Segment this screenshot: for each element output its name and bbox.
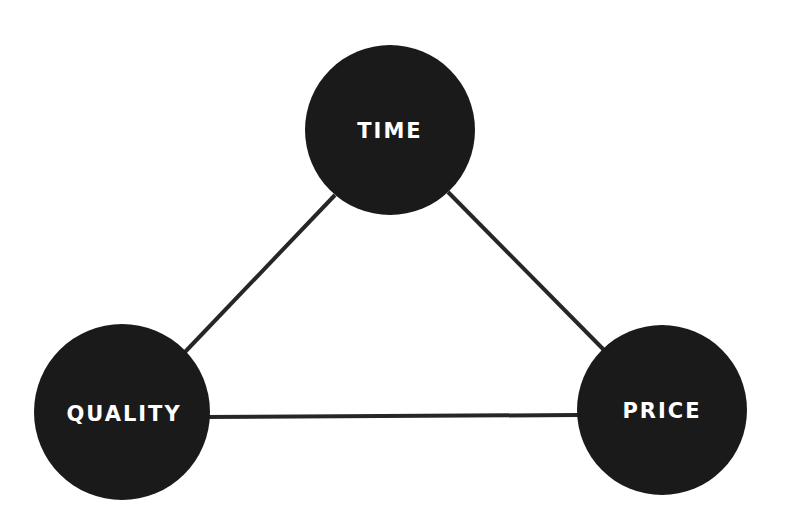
node-time: TIME — [305, 45, 475, 215]
edge-time-price — [448, 192, 604, 350]
edge-time-quality — [185, 195, 335, 352]
node-quality: QUALITY — [34, 324, 210, 500]
node-price-label: PRICE — [622, 399, 701, 423]
triangle-diagram: TIME QUALITY PRICE — [0, 0, 792, 532]
node-quality-label: QUALITY — [66, 402, 181, 426]
edge-quality-price — [205, 415, 578, 417]
node-price: PRICE — [577, 325, 747, 495]
node-time-label: TIME — [357, 119, 422, 143]
